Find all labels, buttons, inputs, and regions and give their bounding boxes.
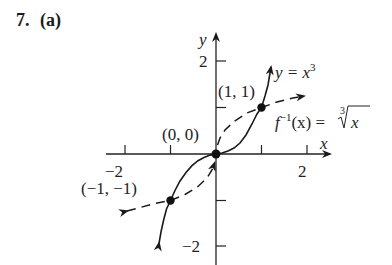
label-origin: (0, 0): [162, 125, 199, 144]
label-1-1: (1, 1): [218, 82, 255, 101]
root-arg: x: [350, 113, 359, 132]
graph: y x −2 2 2 −2 (0, 0) (1, 1) (−1, −1) y =…: [0, 0, 392, 265]
root-index: 3: [340, 105, 345, 116]
x-axis-label: x: [319, 134, 328, 153]
point-1-1: [257, 103, 265, 111]
point-neg1-neg1: [166, 196, 174, 204]
inverse-label: f−1(x) =: [275, 111, 325, 132]
cubic-label: y = x3: [273, 61, 316, 82]
point-origin: [212, 150, 221, 159]
y-axis-label: y: [197, 30, 207, 49]
tick-label-x-2: 2: [298, 162, 307, 181]
tick-label-y-neg2: −2: [182, 237, 200, 256]
label-neg1-neg1: (−1, −1): [81, 179, 137, 198]
tick-label-y-2: 2: [199, 52, 208, 71]
